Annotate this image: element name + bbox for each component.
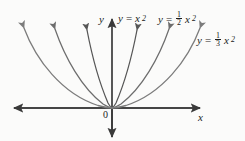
curve-y-equals-x-squared-left <box>87 30 112 108</box>
fraction-one-third: 1 3 <box>215 32 221 48</box>
fraction-one-half: 1 2 <box>176 11 182 27</box>
equation-label-third-x-squared: y= 1 3 x2 <box>197 32 235 48</box>
curve-y-equals-third-x-squared-right <box>112 28 200 108</box>
equation-variable: x <box>135 13 140 24</box>
equation-label-half-x-squared: y= 1 2 x2 <box>158 11 196 27</box>
fraction-numerator: 1 <box>176 11 182 19</box>
equation-equals: = <box>166 14 172 25</box>
curve-y-equals-x-squared-right <box>112 30 137 108</box>
curve-y-equals-half-x-squared-right <box>112 29 169 108</box>
curve-y-equals-third-x-squared-left <box>24 28 112 108</box>
x-axis-label: x <box>198 112 203 123</box>
equation-equals: = <box>126 13 132 24</box>
equation-variable: x <box>224 35 229 46</box>
parabola-figure: y x 0 y=x2 y= 1 2 x2 y= 1 3 x2 <box>0 0 245 141</box>
fraction-numerator: 1 <box>215 32 221 40</box>
y-axis-label: y <box>99 14 104 25</box>
curve-y-equals-half-x-squared-left <box>55 29 112 108</box>
equation-exponent: 2 <box>192 15 196 23</box>
equation-equals: = <box>205 35 211 46</box>
equation-lhs: y <box>197 35 202 46</box>
equation-exponent: 2 <box>231 36 235 44</box>
equation-variable: x <box>185 14 190 25</box>
fraction-denominator: 3 <box>215 39 221 48</box>
origin-label: 0 <box>103 110 108 120</box>
equation-lhs: y <box>118 13 123 24</box>
equation-lhs: y <box>158 14 163 25</box>
equation-exponent: 2 <box>142 15 146 23</box>
equation-label-x-squared: y=x2 <box>118 13 146 24</box>
fraction-denominator: 2 <box>176 18 182 27</box>
